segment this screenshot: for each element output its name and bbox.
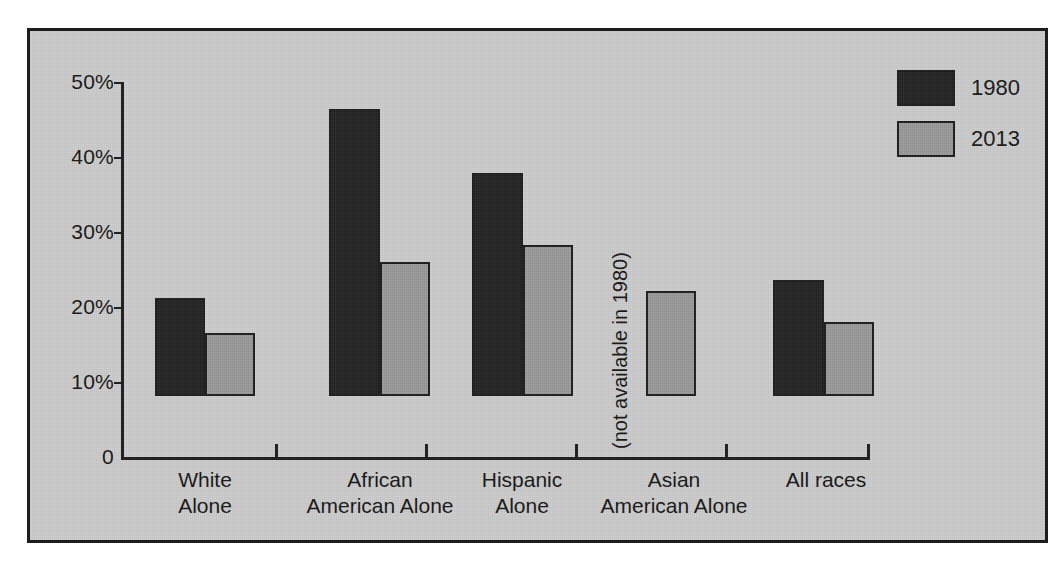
- y-axis-label-30: 30%: [50, 221, 114, 242]
- x-axis-tick-2: [425, 444, 428, 460]
- y-axis-label-50: 50%: [50, 71, 114, 92]
- not-available-annotation: (not available in 1980): [610, 252, 630, 449]
- bar-african-american-alone-2013: [380, 262, 430, 396]
- y-axis-label-20: 20%: [50, 296, 114, 317]
- bar-african-american-alone-1980: [329, 109, 380, 396]
- x-axis-group-label-african-american-alone: African American Alone: [285, 467, 475, 519]
- y-axis-tick-40: [114, 157, 122, 159]
- y-axis-line: [121, 82, 124, 460]
- y-axis-tick-20: [114, 307, 122, 309]
- legend-item-1980: 1980: [897, 70, 1020, 106]
- x-axis-tick-5: [867, 444, 870, 460]
- y-axis-tick-30: [114, 232, 122, 234]
- x-axis-tick-1: [275, 444, 278, 460]
- bar-hispanic-alone-1980: [472, 173, 523, 396]
- bar-all-races-1980: [773, 280, 824, 396]
- x-axis-tick-4: [725, 444, 728, 460]
- legend-swatch-1980-icon: [897, 70, 955, 106]
- chart-legend: 1980 2013: [897, 70, 1020, 172]
- y-axis-label-10: 10%: [50, 371, 114, 392]
- bar-white-alone-1980: [155, 298, 205, 396]
- legend-swatch-2013-icon: [897, 121, 955, 157]
- x-axis-group-label-hispanic-alone: Hispanic Alone: [457, 467, 587, 519]
- x-axis-group-label-white-alone: White Alone: [140, 467, 270, 519]
- y-axis-label-0: 0: [50, 446, 114, 467]
- y-axis-tick-10: [114, 382, 122, 384]
- legend-item-2013: 2013: [897, 121, 1020, 157]
- legend-label-2013: 2013: [971, 128, 1020, 150]
- x-axis-tick-3: [575, 444, 578, 460]
- bar-asian-american-alone-2013: [646, 291, 696, 396]
- x-axis-group-label-all-races: All races: [756, 467, 896, 493]
- x-axis-line: [121, 457, 870, 460]
- plot-area: 50% 40% 30% 20% 10% 0: [30, 31, 1045, 540]
- chart-figure-frame: 50% 40% 30% 20% 10% 0: [27, 28, 1048, 543]
- bar-all-races-2013: [824, 322, 874, 396]
- y-axis-label-40: 40%: [50, 146, 114, 167]
- bar-hispanic-alone-2013: [523, 245, 573, 396]
- bar-white-alone-2013: [205, 333, 255, 396]
- legend-label-1980: 1980: [971, 77, 1020, 99]
- y-axis-tick-50: [114, 82, 122, 84]
- x-axis-group-label-asian-american-alone: Asian American Alone: [579, 467, 769, 519]
